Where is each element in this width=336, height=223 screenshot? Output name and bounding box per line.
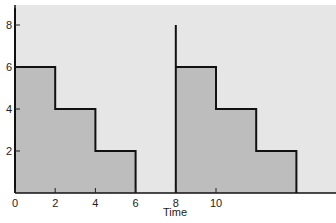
y-tick-label: 6 [6,61,12,73]
x-tick-label: 0 [12,197,18,209]
y-tick-label: 2 [6,145,12,157]
x-tick-label: 10 [210,197,222,209]
step-chart: 0246810 2468 Time [0,0,336,223]
y-tick-label: 4 [6,103,12,115]
x-tick-label: 6 [133,197,139,209]
x-tick-label: 4 [92,197,98,209]
x-tick-label: 2 [52,197,58,209]
y-tick-label: 8 [6,19,12,31]
x-axis-title: Time [163,206,187,218]
